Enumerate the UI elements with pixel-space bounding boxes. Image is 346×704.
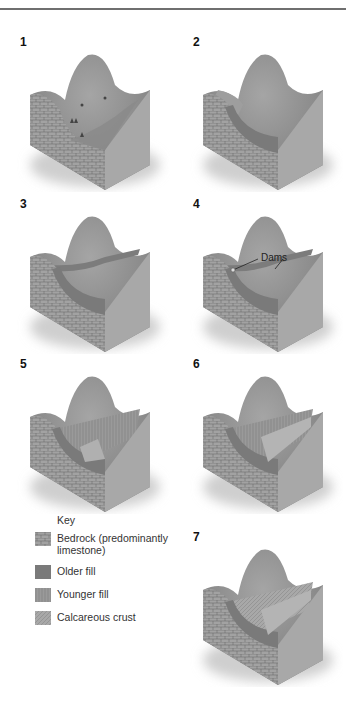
block-diagram-3 [10, 207, 170, 357]
block-diagram-6 [183, 367, 343, 517]
header-rule [0, 8, 346, 10]
block-diagram-7 [183, 540, 343, 690]
older-fill-swatch-icon [35, 565, 51, 579]
younger-fill-swatch-icon [35, 588, 51, 602]
panel-6: 6 [183, 357, 343, 517]
legend-item-younger-fill: Younger fill [35, 588, 195, 602]
block-diagram-4 [183, 207, 343, 357]
legend-item-bedrock: Bedrock (predominantly limestone) [35, 532, 195, 556]
dams-label: Dams [261, 252, 287, 263]
block-diagram-2 [183, 45, 343, 195]
legend-item-calcareous-crust: Calcareous crust [35, 611, 195, 625]
block-diagram-1 [10, 45, 170, 195]
legend-label: Bedrock (predominantly limestone) [57, 532, 195, 556]
panel-7: 7 [183, 530, 343, 690]
legend-label: Older fill [57, 565, 96, 577]
calcareous-crust-swatch-icon [35, 611, 51, 625]
block-diagram-5 [10, 367, 170, 517]
legend-label: Younger fill [57, 588, 109, 600]
panel-1: 1 [10, 35, 170, 195]
legend-label: Calcareous crust [57, 611, 136, 623]
legend-item-older-fill: Older fill [35, 565, 195, 579]
panel-4: 4 Dams [183, 197, 343, 357]
panel-2: 2 [183, 35, 343, 195]
bedrock-swatch-icon [35, 532, 51, 546]
legend-title: Key [57, 514, 195, 526]
legend: Key Bedrock (predominantly limestone) Ol… [35, 514, 195, 634]
panel-3: 3 [10, 197, 170, 357]
panel-5: 5 [10, 357, 170, 517]
